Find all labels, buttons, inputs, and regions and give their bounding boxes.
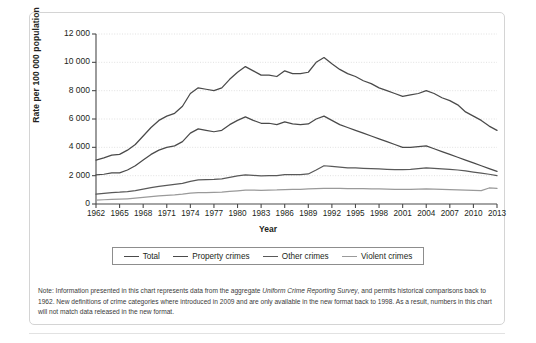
bottom-separator — [29, 333, 505, 334]
legend-line-swatch — [173, 256, 188, 257]
y-tick-label: 4 000 — [44, 141, 90, 151]
x-axis-label: Year — [0, 224, 536, 234]
series-line-violent-crimes — [96, 188, 497, 200]
note-text-part1: Note: Information presented in this char… — [38, 287, 262, 294]
legend-item-total[interactable]: Total — [124, 252, 160, 261]
y-axis-label: Rate per 100 000 population — [31, 0, 41, 135]
legend-label: Property crimes — [192, 252, 249, 261]
y-tick-label: 0 — [44, 198, 90, 208]
chart-legend: TotalProperty crimesOther crimesViolent … — [112, 247, 424, 265]
y-tick-label: 12 000 — [44, 28, 90, 38]
note-survey-title: Uniform Crime Reporting Survey — [262, 287, 357, 294]
legend-label: Total — [143, 252, 160, 261]
legend-line-swatch — [342, 256, 357, 257]
legend-line-swatch — [124, 256, 139, 257]
series-line-property-crimes — [96, 116, 497, 175]
y-tick-label: 8 000 — [44, 85, 90, 95]
x-tick-label: 2013 — [482, 209, 512, 218]
y-tick-label: 6 000 — [44, 113, 90, 123]
legend-label: Violent crimes — [361, 252, 412, 261]
legend-item-property-crimes[interactable]: Property crimes — [173, 252, 249, 261]
legend-item-other-crimes[interactable]: Other crimes — [263, 252, 329, 261]
series-line-total — [96, 58, 497, 161]
legend-item-violent-crimes[interactable]: Violent crimes — [342, 252, 412, 261]
x-axis-tick-labels: 1962196519681971197419771980198319861989… — [0, 209, 536, 223]
y-tick-label: 10 000 — [44, 56, 90, 66]
chart-note: Note: Information presented in this char… — [38, 286, 500, 318]
legend-label: Other crimes — [282, 252, 329, 261]
y-tick-label: 2 000 — [44, 170, 90, 180]
legend-line-swatch — [263, 256, 278, 257]
